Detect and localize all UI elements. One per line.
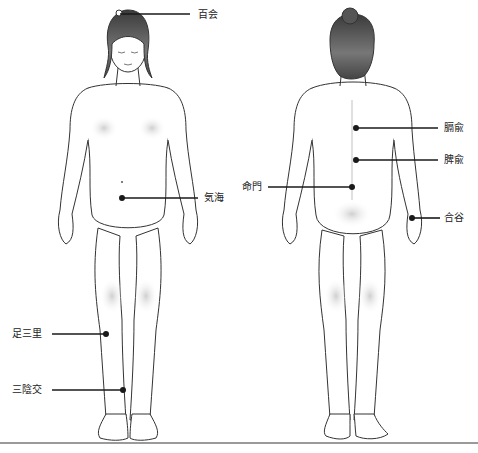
- back-right-foot: [354, 414, 388, 439]
- label-sanninko: 三陰交: [12, 384, 42, 396]
- acupoint-diagram: 百会 気海 足三里 三陰交 膈兪 脾兪 命門 合谷: [0, 0, 478, 453]
- figures-illustration: [0, 0, 478, 453]
- label-kakuyu: 膈兪: [444, 122, 464, 134]
- hair-bun: [342, 8, 358, 24]
- label-hyakue: 百会: [198, 9, 218, 21]
- label-hiyu: 脾兪: [444, 154, 464, 166]
- label-kikai: 気海: [204, 192, 224, 204]
- front-figure: [58, 10, 197, 440]
- floor-line: [0, 442, 478, 444]
- front-right-leg: [130, 228, 161, 420]
- back-left-arm: [282, 88, 312, 244]
- front-right-arm: [168, 88, 198, 244]
- front-left-foot: [98, 414, 128, 440]
- front-left-arm: [58, 88, 88, 244]
- back-left-leg: [319, 230, 350, 420]
- back-right-leg: [354, 230, 385, 420]
- back-left-foot: [324, 414, 350, 439]
- label-meimon: 命門: [242, 181, 262, 193]
- label-ashisanri: 足三里: [12, 328, 42, 340]
- back-figure: [282, 8, 421, 439]
- front-right-foot: [130, 414, 158, 440]
- back-right-arm: [394, 88, 422, 244]
- front-torso: [83, 84, 172, 228]
- label-goukoku: 合谷: [444, 212, 464, 224]
